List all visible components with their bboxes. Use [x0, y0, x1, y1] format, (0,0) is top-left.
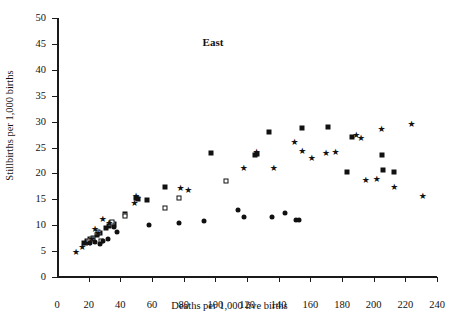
data-point-filled-square — [300, 126, 305, 131]
y-axis-tick — [52, 96, 57, 97]
y-axis-tick — [52, 148, 57, 149]
y-axis-tick-label: 20 — [0, 168, 46, 179]
y-axis-tick-label: 30 — [0, 117, 46, 128]
data-point-star: ★ — [133, 193, 142, 202]
data-point-filled-circle — [270, 215, 275, 220]
data-point-filled-circle — [241, 215, 246, 220]
x-axis-tick — [215, 277, 216, 282]
y-axis-tick — [52, 122, 57, 123]
data-point-filled-square — [392, 170, 397, 175]
x-axis-tick — [89, 277, 90, 282]
data-point-star: ★ — [307, 153, 316, 162]
y-axis-tick-label: 5 — [0, 246, 46, 257]
data-point-star: ★ — [184, 185, 193, 194]
data-point-filled-circle — [235, 207, 240, 212]
x-axis-tick — [405, 277, 406, 282]
data-point-filled-square — [325, 125, 330, 130]
data-point-star: ★ — [252, 147, 261, 156]
data-point-filled-circle — [146, 223, 151, 228]
data-point-open-square — [176, 196, 181, 201]
data-point-filled-square — [145, 198, 150, 203]
y-axis-tick — [52, 251, 57, 252]
x-axis-tick — [152, 277, 153, 282]
y-axis-tick-label: 10 — [0, 220, 46, 231]
data-point-star: ★ — [418, 191, 427, 200]
y-axis-tick-label: 45 — [0, 39, 46, 50]
data-point-filled-square — [381, 168, 386, 173]
data-point-filled-circle — [105, 236, 110, 241]
data-point-open-square — [162, 206, 167, 211]
scatter-chart-figure: East Stillbirths per 1,000 births Deaths… — [0, 0, 459, 324]
x-axis-tick — [437, 277, 438, 282]
data-point-star: ★ — [94, 228, 103, 237]
y-axis-tick-label: 15 — [0, 194, 46, 205]
data-point-star: ★ — [322, 148, 331, 157]
y-axis-tick — [52, 277, 57, 278]
data-point-open-square — [224, 178, 229, 183]
y-axis-tick-label: 35 — [0, 91, 46, 102]
y-axis-tick-label: 25 — [0, 143, 46, 154]
y-axis-tick — [52, 18, 57, 19]
y-axis-tick-label: 40 — [0, 65, 46, 76]
y-axis-tick — [52, 173, 57, 174]
data-point-star: ★ — [298, 146, 307, 155]
data-point-star: ★ — [377, 125, 386, 134]
data-point-star: ★ — [372, 174, 381, 183]
y-axis-tick — [52, 70, 57, 71]
data-point-star: ★ — [239, 164, 248, 173]
y-axis-tick-label: 0 — [0, 272, 46, 283]
x-axis-tick — [247, 277, 248, 282]
y-axis-tick — [52, 199, 57, 200]
plot-area: 020406080100120140160180200220240★★★★★★★… — [57, 18, 437, 277]
data-point-filled-square — [267, 130, 272, 135]
data-point-filled-square — [344, 170, 349, 175]
x-axis-tick — [184, 277, 185, 282]
data-point-star: ★ — [357, 133, 366, 142]
x-axis-tick — [279, 277, 280, 282]
y-axis-tick — [52, 44, 57, 45]
y-axis-tick — [52, 225, 57, 226]
data-point-star: ★ — [390, 182, 399, 191]
data-point-filled-square — [379, 153, 384, 158]
x-axis-tick — [120, 277, 121, 282]
data-point-filled-square — [162, 185, 167, 190]
x-axis-tick — [374, 277, 375, 282]
data-point-filled-circle — [115, 230, 120, 235]
data-point-filled-circle — [176, 220, 181, 225]
data-point-filled-square — [208, 151, 213, 156]
data-point-star: ★ — [331, 147, 340, 156]
data-point-filled-circle — [283, 211, 288, 216]
data-point-filled-circle — [202, 219, 207, 224]
data-point-open-square — [123, 213, 128, 218]
data-point-star: ★ — [407, 119, 416, 128]
x-axis-tick-label: 240 — [417, 300, 457, 311]
data-point-star: ★ — [361, 176, 370, 185]
x-axis-tick — [342, 277, 343, 282]
data-point-star: ★ — [269, 163, 278, 172]
data-point-filled-circle — [112, 224, 117, 229]
x-axis-tick — [310, 277, 311, 282]
data-point-filled-circle — [297, 218, 302, 223]
y-axis-tick-label: 50 — [0, 13, 46, 24]
